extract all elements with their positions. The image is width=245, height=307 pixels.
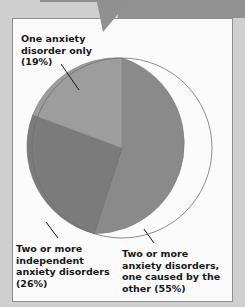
callout-bubble: (4%) <box>0 0 245 36</box>
label-percent: other (55%) <box>122 283 226 295</box>
label-percent: (26%) <box>16 278 112 290</box>
pie-chart-figure: (4%) One anxiety disorder only (19%) Two… <box>0 0 245 307</box>
callout-shape <box>40 0 245 32</box>
label-two-or-more-one-caused: Two or more anxiety disorders, one cause… <box>122 248 226 294</box>
label-two-or-more-independent: Two or more independent anxiety disorder… <box>16 243 112 289</box>
label-line-2: anxiety disorders, <box>122 260 226 272</box>
label-line-2: disorder only <box>21 45 116 57</box>
label-line-1: One anxiety <box>21 33 116 45</box>
label-line-2: independent <box>16 255 112 267</box>
label-line-3: one caused by the <box>122 271 226 283</box>
label-line-3: anxiety disorders <box>16 266 112 278</box>
label-line-1: Two or more <box>122 248 226 260</box>
label-one-anxiety-disorder-only: One anxiety disorder only (19%) <box>21 33 116 68</box>
label-percent: (19%) <box>21 56 116 68</box>
label-line-1: Two or more <box>16 243 112 255</box>
